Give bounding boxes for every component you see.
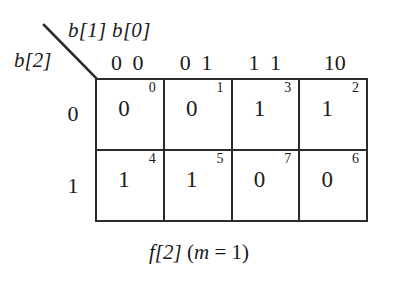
- karnaugh-map-figure: b[1] b[0] b[2] 0 0 0 1 1 1 10 0 1 0 0 1 …: [0, 0, 398, 287]
- cell-value: 0: [165, 97, 231, 120]
- column-variable-label: b[1] b[0]: [68, 18, 151, 43]
- minterm-index: 0: [149, 81, 156, 95]
- kmap-cell-m3: 3 1: [231, 80, 299, 149]
- kmap-cell-m1: 1 0: [163, 80, 231, 149]
- minterm-index: 2: [352, 81, 359, 95]
- row-header-0: 0: [55, 78, 91, 150]
- column-header-01: 0 1: [164, 47, 233, 78]
- kmap-cell-m6: 6 0: [298, 151, 366, 220]
- cell-value: 1: [233, 97, 299, 120]
- kmap-row-0: 0 0 1 0 3 1 2 1: [97, 80, 366, 149]
- minterm-index: 1: [217, 81, 224, 95]
- caption-function-label: f[2]: [149, 240, 182, 264]
- cell-value: 1: [165, 168, 231, 191]
- kmap-row-1: 4 1 5 1 7 0 6 0: [97, 149, 366, 220]
- kmap-cell-m2: 2 1: [298, 80, 366, 149]
- row-header-1: 1: [55, 150, 91, 222]
- cell-value: 1: [97, 168, 163, 191]
- minterm-index: 3: [284, 81, 291, 95]
- minterm-index: 5: [217, 152, 224, 166]
- minterm-index: 6: [352, 152, 359, 166]
- minterm-index: 7: [284, 152, 291, 166]
- kmap-cell-m0: 0 0: [97, 80, 163, 149]
- row-headers: 0 1: [55, 78, 91, 222]
- kmap-cell-m7: 7 0: [231, 151, 299, 220]
- row-variable-label: b[2]: [14, 48, 51, 73]
- figure-caption: f[2] (m = 1): [0, 240, 398, 265]
- karnaugh-map-grid: 0 0 1 0 3 1 2 1 4 1 5 1: [95, 78, 368, 222]
- cell-value: 0: [300, 168, 366, 191]
- caption-condition-label: (m = 1): [187, 240, 249, 264]
- column-header-00: 0 0: [95, 47, 164, 78]
- kmap-cell-m5: 5 1: [163, 151, 231, 220]
- column-headers: 0 0 0 1 1 1 10: [95, 47, 368, 78]
- column-header-10: 10: [301, 47, 368, 78]
- kmap-cell-m4: 4 1: [97, 151, 163, 220]
- minterm-index: 4: [149, 152, 156, 166]
- cell-value: 0: [233, 168, 299, 191]
- column-header-11: 1 1: [233, 47, 302, 78]
- cell-value: 1: [300, 97, 366, 120]
- cell-value: 0: [97, 97, 163, 120]
